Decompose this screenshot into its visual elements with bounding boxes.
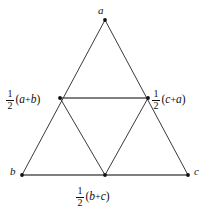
expression-a-plus-b: (a+b)	[16, 94, 41, 106]
vertex-dot-a	[103, 18, 107, 22]
fraction-one-half-ca: 1 2	[152, 89, 160, 111]
fraction-one-half-bc: 1 2	[76, 186, 84, 208]
vertex-dot-b	[20, 173, 24, 177]
vertex-label-b: b	[10, 166, 16, 177]
vertex-dot-mid-ab	[58, 96, 62, 100]
close-paren: )	[182, 93, 186, 105]
fraction-numerator: 1	[7, 89, 14, 100]
segment-medial-left	[60, 98, 105, 175]
close-paren: )	[106, 190, 110, 202]
fraction-one-half-ab: 1 2	[6, 89, 14, 111]
medial-triangle-figure: a b c 1 2 (a+b) 1 2 (c+a) 1 2 (b+c)	[0, 0, 209, 216]
midpoint-label-bc: 1 2 (b+c)	[76, 186, 110, 208]
segment-medial-right	[105, 98, 148, 175]
midpoint-label-ca: 1 2 (c+a)	[152, 89, 186, 111]
fraction-numerator: 1	[77, 186, 84, 197]
expression-c-plus-a: (c+a)	[162, 94, 186, 106]
vertex-dot-mid-ca	[146, 96, 150, 100]
fraction-denominator: 2	[7, 101, 14, 112]
fraction-denominator: 2	[77, 198, 84, 209]
vertex-label-c: c	[194, 166, 199, 177]
midpoint-label-ab: 1 2 (a+b)	[6, 89, 40, 111]
fraction-denominator: 2	[153, 101, 160, 112]
vertex-dot-mid-bc	[103, 173, 107, 177]
fraction-numerator: 1	[153, 89, 160, 100]
close-paren: )	[36, 93, 40, 105]
vertex-dot-c	[186, 173, 190, 177]
expression-b-plus-c: (b+c)	[86, 191, 110, 203]
vertex-label-a: a	[98, 5, 104, 16]
